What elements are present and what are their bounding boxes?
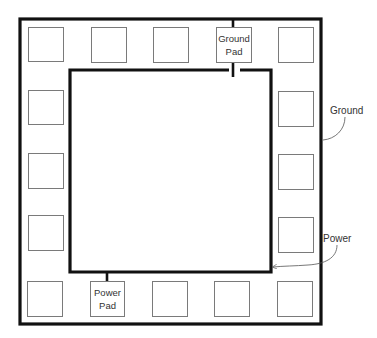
power-pad: Power Pad (91, 282, 125, 317)
pad (215, 282, 250, 317)
pad (29, 28, 64, 62)
pad (29, 216, 64, 251)
power-pad-label-line2: Pad (99, 300, 116, 311)
ground-pad-label-line2: Pad (226, 46, 243, 57)
pad (29, 154, 64, 189)
pad (278, 282, 313, 317)
power-callout-label: Power (323, 233, 352, 244)
pad-ring-diagram: Ground Pad Power Pad Ground Power (0, 0, 377, 338)
power-pad-label-line1: Power (94, 287, 121, 298)
pad (28, 282, 63, 317)
pad (279, 92, 314, 127)
ground-pad: Ground Pad (217, 28, 252, 63)
ground-pad-label-line1: Ground (218, 33, 250, 44)
pad (153, 282, 188, 317)
ground-callout: Ground (323, 105, 363, 140)
pad (279, 155, 314, 190)
outer-ground-ring (20, 19, 321, 324)
pad (279, 28, 314, 63)
pad (29, 91, 64, 125)
ground-callout-arrow (323, 117, 345, 140)
inner-power-ring (70, 70, 271, 272)
ground-callout-label: Ground (330, 105, 363, 116)
pad (154, 28, 189, 63)
pad (92, 28, 127, 63)
pad (279, 218, 314, 253)
